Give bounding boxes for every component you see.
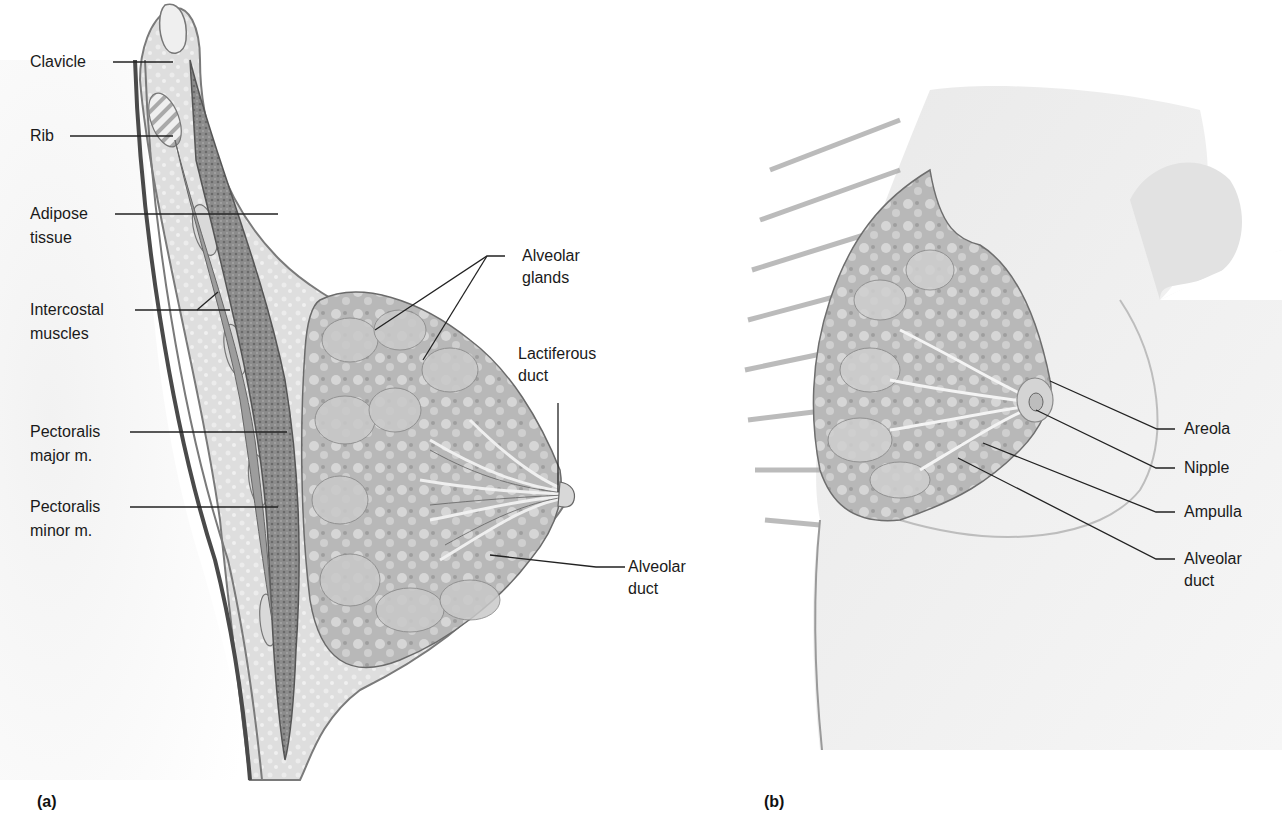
label-line-1: Adipose	[30, 204, 88, 224]
label-line-1: Alveolar	[1184, 549, 1242, 569]
panel-label-b: (b)	[764, 793, 784, 811]
label-line-2: duct	[628, 579, 686, 599]
panel-label-a: (a)	[37, 793, 57, 811]
label-line-1: Lactiferous	[518, 344, 596, 364]
label-line-1: Intercostal	[30, 300, 104, 320]
label-line-1: Pectoralis	[30, 422, 100, 442]
label-line-2: duct	[518, 366, 596, 386]
label-line-2: major m.	[30, 446, 100, 466]
label-lactiferous-duct: Lactiferousduct	[518, 344, 596, 386]
anatomy-figure: Clavicle Rib Adiposetissue Intercostalmu…	[0, 0, 1282, 834]
label-adipose-tissue: Adiposetissue	[30, 204, 88, 248]
label-ampulla: Ampulla	[1184, 502, 1242, 522]
label-areola: Areola	[1184, 419, 1230, 439]
label-alveolar-duct-a: Alveolarduct	[628, 557, 686, 599]
label-line-1: Pectoralis	[30, 497, 100, 517]
label-clavicle: Clavicle	[30, 52, 86, 72]
label-line-2: minor m.	[30, 521, 100, 541]
label-nipple: Nipple	[1184, 458, 1229, 478]
label-intercostal-muscles: Intercostalmuscles	[30, 300, 104, 344]
label-text: Clavicle	[30, 53, 86, 70]
label-line-2: muscles	[30, 324, 104, 344]
label-alveolar-glands: Alveolarglands	[522, 246, 580, 288]
label-line-1: Alveolar	[628, 557, 686, 577]
label-alveolar-duct-b: Alveolarduct	[1184, 549, 1242, 591]
label-pectoralis-minor: Pectoralisminor m.	[30, 497, 100, 541]
panel-a-artwork	[0, 4, 574, 780]
illustration-artwork	[0, 0, 1282, 834]
label-pectoralis-major: Pectoralismajor m.	[30, 422, 100, 466]
label-text: Rib	[30, 127, 54, 144]
label-line-2: duct	[1184, 571, 1242, 591]
label-line-2: tissue	[30, 228, 88, 248]
label-text: Nipple	[1184, 459, 1229, 476]
label-text: Ampulla	[1184, 503, 1242, 520]
label-rib: Rib	[30, 126, 54, 146]
label-text: Areola	[1184, 420, 1230, 437]
label-line-1: Alveolar	[522, 246, 580, 266]
label-line-2: glands	[522, 268, 580, 288]
